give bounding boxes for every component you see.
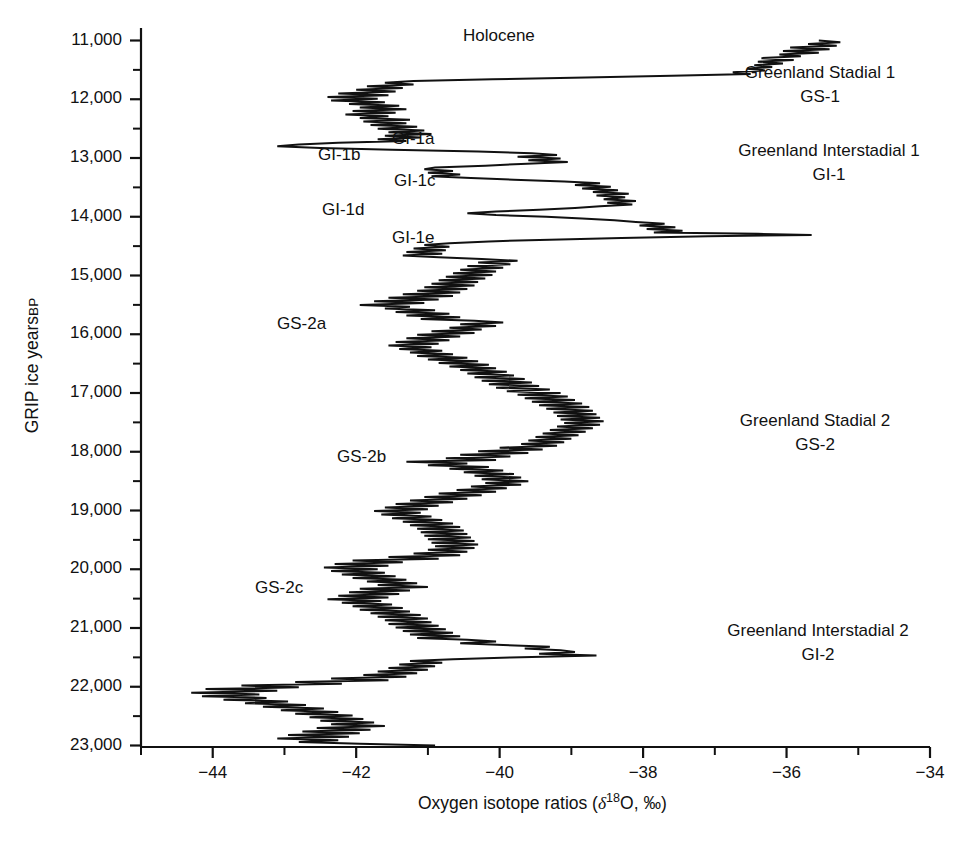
annotation-gs-2-name: Greenland Stadial 2 (655, 411, 969, 431)
x-axis-title-prefix: Oxygen isotope ratios ( (418, 793, 598, 813)
chart-figure: GRIP ice yearsBP Oxygen isotope ratios (… (0, 0, 969, 844)
x-tick-label: −34 (880, 763, 969, 783)
y-tick-label: 14,000 (10, 206, 122, 226)
y-tick-marks (130, 41, 141, 746)
y-tick-label: 19,000 (10, 500, 122, 520)
annotation-gi-1b: GI-1b (318, 145, 361, 165)
annotation-gi-1d: GI-1d (322, 200, 365, 220)
annotation-gi-1e: GI-1e (392, 228, 435, 248)
x-tick-label: −38 (593, 763, 693, 783)
annotation-gi-1-name: Greenland Interstadial 1 (669, 141, 969, 161)
isotope-mass-superscript: 18 (606, 791, 620, 805)
y-tick-label: 16,000 (10, 323, 122, 343)
y-tick-label: 13,000 (10, 147, 122, 167)
x-axis-title-suffix: ) (661, 793, 667, 813)
y-tick-label: 23,000 (10, 735, 122, 755)
annotation-gi-1-code: GI-1 (669, 165, 969, 185)
y-tick-label: 12,000 (10, 88, 122, 108)
y-tick-label: 17,000 (10, 382, 122, 402)
y-tick-label: 21,000 (10, 617, 122, 637)
annotation-gi-2-code: GI-2 (658, 645, 969, 665)
y-tick-label: 15,000 (10, 265, 122, 285)
x-axis-title-mid: O, ‰ (620, 793, 661, 813)
y-axis-title: GRIP ice yearsBP (22, 276, 43, 456)
y-tick-label: 20,000 (10, 558, 122, 578)
annotation-gi-1a: GI-1a (392, 129, 435, 149)
annotation-gi-2-name: Greenland Interstadial 2 (658, 621, 969, 641)
annotation-gs-1-name: Greenland Stadial 1 (660, 63, 969, 83)
annotation-gs-1-code: GS-1 (660, 87, 969, 107)
y-axis-title-suffix: BP (26, 298, 41, 316)
annotation-gs-2-code: GS-2 (655, 435, 969, 455)
x-tick-label: −44 (163, 763, 263, 783)
annotation-gs-2b: GS-2b (337, 447, 386, 467)
y-tick-label: 22,000 (10, 676, 122, 696)
annotation-holocene: Holocene (463, 26, 535, 46)
y-tick-label: 18,000 (10, 441, 122, 461)
x-tick-label: −36 (737, 763, 837, 783)
annotation-gs-2a: GS-2a (277, 314, 326, 334)
x-tick-label: −40 (450, 763, 550, 783)
y-tick-label: 11,000 (10, 30, 122, 50)
annotation-gi-1c: GI-1c (394, 171, 436, 191)
x-axis-title: Oxygen isotope ratios (δ18O, ‰) (418, 791, 667, 814)
x-tick-marks (141, 747, 930, 758)
annotation-gs-2c: GS-2c (255, 578, 303, 598)
delta-symbol: δ (598, 793, 606, 813)
x-tick-label: −42 (306, 763, 406, 783)
